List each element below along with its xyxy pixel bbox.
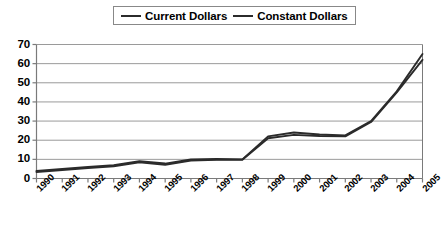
y-axis-tick-label: 30 — [4, 114, 30, 126]
y-axis-tick-label: 10 — [4, 152, 30, 164]
y-axis-tick-label: 40 — [4, 95, 30, 107]
y-axis-tick-label: 0 — [4, 172, 30, 184]
series-line — [37, 60, 423, 172]
y-axis-tick-label: 20 — [4, 133, 30, 145]
y-axis-tick-label: 50 — [4, 76, 30, 88]
series-lines — [37, 54, 423, 172]
y-axis-tick-label: 60 — [4, 57, 30, 69]
y-axis-tick-label: 70 — [4, 38, 30, 50]
series-line — [37, 54, 423, 171]
